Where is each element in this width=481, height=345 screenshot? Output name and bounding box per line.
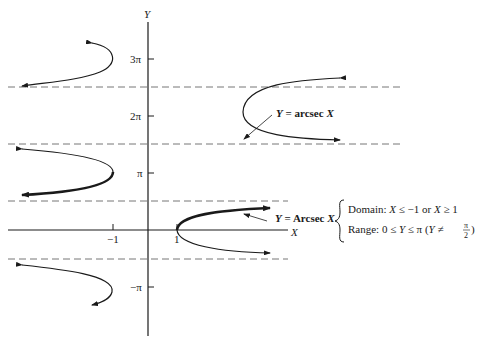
x-tick-marks bbox=[113, 224, 177, 230]
y-tick-marks bbox=[148, 59, 154, 287]
range-close-paren: ) bbox=[471, 223, 475, 236]
branch-left-middle-principal bbox=[22, 172, 113, 195]
branch-left-middle bbox=[22, 149, 113, 172]
label-principal-arcsec: Y = Arcsec X bbox=[275, 212, 335, 224]
y-axis-label: Y bbox=[144, 8, 152, 20]
y-tick-label-3pi: 3π bbox=[130, 53, 142, 65]
curves bbox=[22, 43, 340, 305]
domain-text: Domain: X ≤ −1 or X ≥ 1 bbox=[348, 203, 458, 215]
branch-right-lower bbox=[177, 230, 270, 253]
label-general-arcsec: Y = arcsec X bbox=[276, 107, 334, 119]
leader-arcsec bbox=[244, 115, 272, 139]
arcsec-graph: Y X 3π 2π π −π −1 1 Y = arcsec X Y = Arc… bbox=[0, 0, 481, 345]
y-tick-label-2pi: 2π bbox=[130, 110, 142, 122]
branch-principal-right bbox=[177, 208, 270, 230]
y-tick-label-neg-pi: −π bbox=[130, 281, 142, 293]
range-frac-num: π bbox=[464, 221, 468, 230]
range-text: Range: 0 ≤ Y ≤ π (Y ≠ bbox=[348, 223, 444, 236]
range-frac-den: 2 bbox=[464, 231, 468, 240]
branch-bottom-left bbox=[22, 265, 112, 305]
branch-top-left bbox=[22, 43, 113, 86]
asymptote-lines bbox=[8, 87, 400, 259]
x-tick-label-neg1: −1 bbox=[107, 233, 119, 245]
y-tick-label-pi: π bbox=[137, 167, 143, 179]
x-axis-label: X bbox=[290, 226, 299, 238]
brace bbox=[335, 200, 344, 242]
leader-Arcsec bbox=[244, 214, 267, 221]
